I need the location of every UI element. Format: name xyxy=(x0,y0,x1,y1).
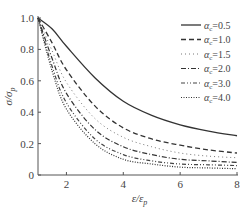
legend-label: αc=4.0 xyxy=(204,92,231,105)
legend-label: αc=2.0 xyxy=(204,63,231,76)
x-tick-label: 4 xyxy=(121,178,127,190)
x-axis-label: ε/εp xyxy=(132,192,148,207)
legend-label: αc=3.0 xyxy=(204,78,231,91)
y-tick-label: 0.6 xyxy=(20,75,34,87)
legend-label: αc=1.5 xyxy=(204,49,231,62)
y-tick-label: 0.4 xyxy=(20,106,34,118)
y-tick-label: 0 xyxy=(29,169,35,181)
y-axis-label: σ/σp xyxy=(2,88,17,106)
legend-label: αc=0.5 xyxy=(204,20,231,33)
y-tick-label: 0.8 xyxy=(20,43,34,55)
y-tick-label: 0.2 xyxy=(20,138,34,150)
stress-strain-chart: 246800.20.40.60.81.0ε/εpσ/σp αc=0.5αc=1.… xyxy=(0,0,249,207)
legend-label: αc=1.0 xyxy=(204,34,231,47)
x-tick-label: 6 xyxy=(177,178,183,190)
x-tick-label: 8 xyxy=(234,178,240,190)
x-tick-label: 2 xyxy=(64,178,70,190)
legend: αc=0.5αc=1.0αc=1.5αc=2.0αc=3.0αc=4.0 xyxy=(181,20,231,106)
y-tick-label: 1.0 xyxy=(20,12,34,24)
